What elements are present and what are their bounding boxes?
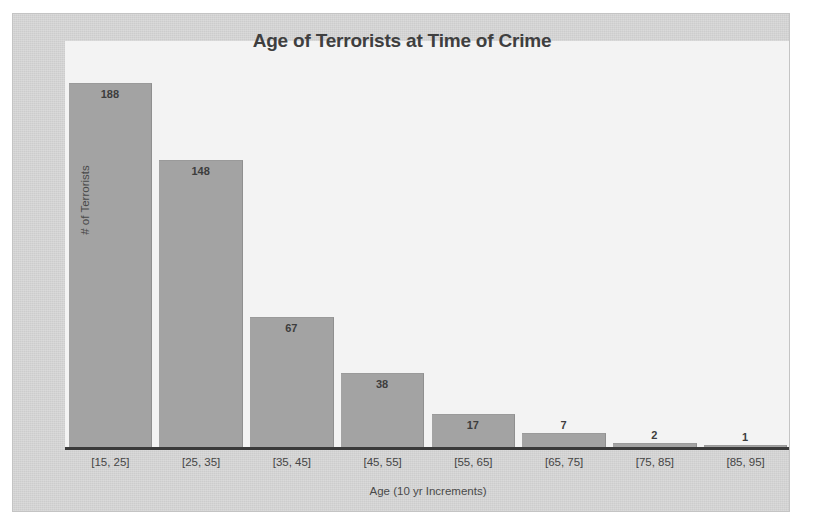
chart-frame: Age of Terrorists at Time of Crime # of … [12,13,790,512]
x-tick-label: [65, 75] [519,456,610,468]
bar[interactable]: 148 [159,160,242,447]
x-tick-label: [35, 45] [247,456,338,468]
x-axis-tick-labels: [15, 25][25, 35][35, 45][45, 55][55, 65]… [65,456,790,468]
bar-value-label: 17 [432,419,514,431]
bar-slot: 148 [156,41,247,447]
bar-value-label: 38 [341,378,423,390]
bar-slot: 17 [428,41,519,447]
x-tick-label: [55, 65] [428,456,519,468]
plot-area: 188148673817721 [15, 25][25, 35][35, 45]… [65,41,790,461]
y-axis-title: # of Terrorists [79,120,91,280]
x-tick-label: [75, 85] [610,456,701,468]
bar-slot: 2 [610,41,701,447]
bar-slot: 67 [247,41,338,447]
bar-slot: 38 [337,41,428,447]
bar-value-label: 188 [69,88,151,100]
x-tick-label: [45, 55] [337,456,428,468]
bar-value-label: 148 [159,165,241,177]
bar[interactable]: 17 [432,414,515,447]
x-tick-label: [15, 25] [65,456,156,468]
bar[interactable]: 67 [250,317,333,447]
bar-slot: 7 [519,41,610,447]
bar-slot: 1 [700,41,790,447]
bar-value-label: 2 [613,429,695,441]
bar-series: 188148673817721 [65,41,790,447]
bar-value-label: 7 [522,419,604,431]
bar[interactable]: 38 [341,373,424,447]
chart-title: Age of Terrorists at Time of Crime [13,30,790,52]
bar-value-label: 67 [250,322,332,334]
chart-figure: Age of Terrorists at Time of Crime # of … [0,0,814,529]
x-tick-label: [25, 35] [156,456,247,468]
x-axis-title: Age (10 yr Increments) [65,485,790,497]
bar[interactable]: 7 [522,433,605,447]
x-axis-line [65,447,790,450]
x-tick-label: [85, 95] [700,456,790,468]
bar-value-label: 1 [704,431,786,443]
